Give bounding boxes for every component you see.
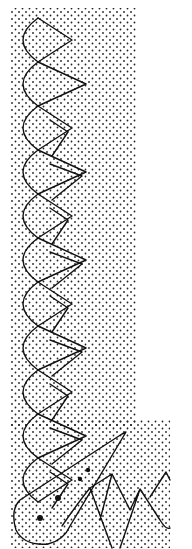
lace-border-illustration (0, 0, 192, 549)
